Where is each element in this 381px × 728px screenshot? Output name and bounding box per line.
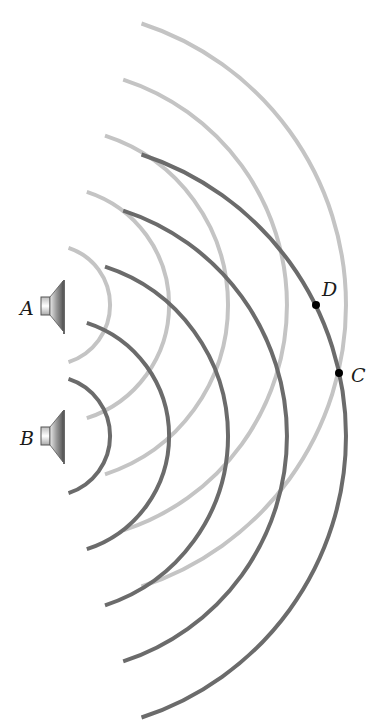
point-d-marker (312, 301, 320, 309)
speaker-a-label: A (18, 297, 34, 319)
wavefront-b-1 (69, 379, 111, 493)
speaker-a: A (18, 280, 64, 334)
speaker-b: B (19, 410, 64, 464)
speaker-a-magnet-icon (41, 297, 50, 315)
point-c-label: C (351, 364, 366, 386)
speaker-b-label: B (19, 427, 34, 449)
wavefront-a-1 (69, 248, 111, 362)
wavefronts-speaker-a (69, 24, 346, 587)
point-c-marker (335, 369, 343, 377)
speaker-a-cone-icon (50, 281, 63, 331)
speaker-b-cone-icon (50, 411, 63, 462)
wavefront-a-4 (123, 80, 287, 531)
point-d: D (312, 278, 337, 309)
point-d-label: D (321, 278, 337, 300)
wavefront-b-4 (123, 211, 287, 662)
speaker-b-magnet-icon (41, 427, 50, 445)
wave-interference-diagram: A B D C (0, 0, 381, 728)
wavefronts-speaker-b (69, 155, 346, 718)
